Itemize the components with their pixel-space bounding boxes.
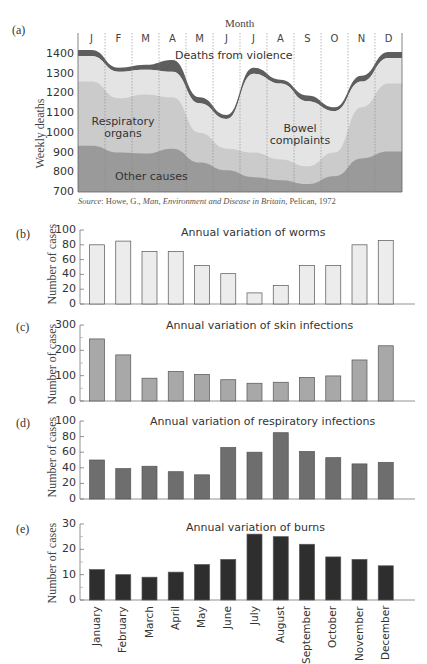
y-tick-label: 100 bbox=[44, 414, 76, 427]
y-tick-label: 30 bbox=[44, 517, 76, 530]
y-tick-label: 100 bbox=[44, 223, 76, 236]
x-category-label: January bbox=[90, 606, 102, 646]
x-category-label: June bbox=[221, 606, 233, 629]
x-category-label: November bbox=[353, 606, 365, 661]
y-tick-label: 80 bbox=[44, 430, 76, 443]
y-tick-label: 40 bbox=[44, 267, 76, 280]
y-tick-label: 0 bbox=[44, 297, 76, 310]
y-tick-label: 0 bbox=[44, 394, 76, 407]
x-category-label: May bbox=[195, 606, 207, 628]
y-tick-label: 0 bbox=[44, 492, 76, 505]
x-category-label: October bbox=[326, 606, 338, 648]
x-category-label: September bbox=[300, 606, 312, 664]
x-category-label: February bbox=[116, 606, 128, 653]
y-tick-label: 20 bbox=[44, 542, 76, 555]
x-category-label: April bbox=[169, 606, 181, 630]
x-category-label: March bbox=[143, 606, 155, 638]
y-tick-label: 80 bbox=[44, 238, 76, 251]
x-category-label: August bbox=[274, 606, 286, 643]
y-tick-label: 60 bbox=[44, 445, 76, 458]
y-tick-label: 40 bbox=[44, 461, 76, 474]
x-category-label: December bbox=[379, 606, 391, 660]
y-tick-label: 20 bbox=[44, 476, 76, 489]
y-tick-label: 100 bbox=[44, 369, 76, 382]
y-tick-label: 20 bbox=[44, 282, 76, 295]
y-tick-label: 0 bbox=[44, 593, 76, 606]
y-tick-label: 200 bbox=[44, 343, 76, 356]
x-category-label: July bbox=[248, 606, 260, 625]
y-tick-label: 60 bbox=[44, 253, 76, 266]
y-tick-label: 10 bbox=[44, 568, 76, 581]
y-tick-label: 300 bbox=[44, 318, 76, 331]
